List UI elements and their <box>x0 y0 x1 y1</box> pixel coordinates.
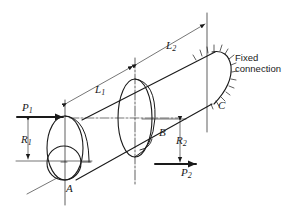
label-point-b: B <box>159 126 166 138</box>
label-p2: P2 <box>180 166 192 180</box>
crank-a <box>47 116 91 180</box>
label-l1: L1 <box>94 83 105 97</box>
label-r2: R2 <box>175 134 187 148</box>
label-point-c: C <box>218 99 226 111</box>
shaft-diagram: P1 R1 L1 L2 R2 P2 A B C Fixed connection <box>0 0 295 209</box>
label-fixed-connection-line2: connection <box>235 63 281 74</box>
label-p1: P1 <box>21 101 33 115</box>
axis-line-a <box>27 178 57 194</box>
label-r1: R1 <box>20 133 32 147</box>
label-l2: L2 <box>165 39 176 53</box>
shaft <box>76 52 231 180</box>
label-point-a: A <box>65 182 73 194</box>
label-fixed-connection-line1: Fixed <box>235 52 258 63</box>
